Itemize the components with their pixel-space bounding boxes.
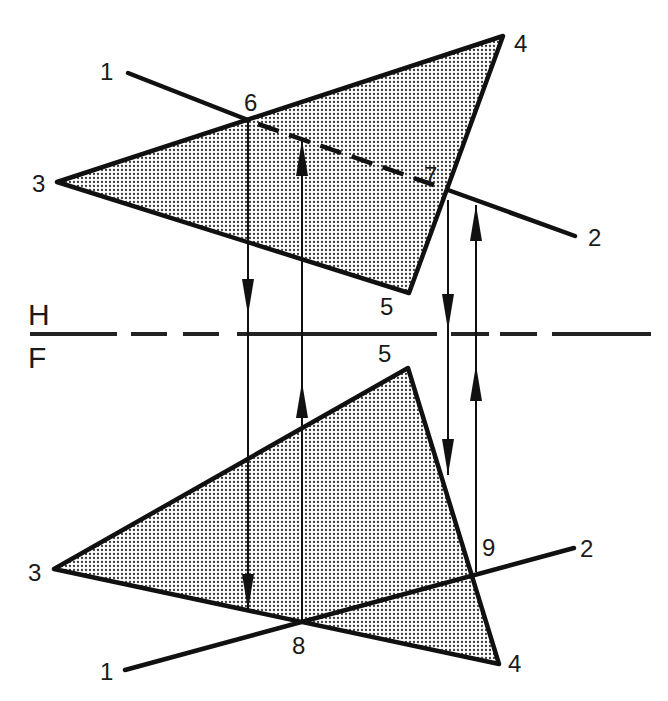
top-label-7: 7 <box>424 162 437 189</box>
arrowhead-up-icon <box>296 382 308 418</box>
fold-label-h: H <box>28 298 50 331</box>
top-line-segment-1-6 <box>128 73 248 120</box>
front-label-3: 3 <box>28 559 41 586</box>
front-label-4: 4 <box>508 650 521 677</box>
front-label-9: 9 <box>482 534 495 561</box>
top-view: 1 2 3 4 5 6 7 <box>32 30 601 320</box>
arrowhead-up-icon <box>470 365 482 401</box>
top-label-6: 6 <box>244 89 257 116</box>
arrowhead-down-icon <box>242 279 254 315</box>
top-label-4: 4 <box>514 30 527 57</box>
front-label-8: 8 <box>292 632 305 659</box>
top-label-1: 1 <box>100 58 113 85</box>
top-line-segment-7-2 <box>448 190 575 236</box>
front-label-1: 1 <box>100 658 113 685</box>
front-label-5: 5 <box>378 340 391 367</box>
arrowhead-down-icon <box>442 439 454 475</box>
fold-label-f: F <box>28 341 46 374</box>
arrowhead-down-icon <box>442 294 454 330</box>
top-label-2: 2 <box>588 224 601 251</box>
top-label-3: 3 <box>32 170 45 197</box>
front-view: 1 2 3 4 5 8 9 <box>28 340 593 685</box>
top-label-5: 5 <box>380 293 393 320</box>
arrowhead-up-icon <box>470 205 482 241</box>
front-label-2: 2 <box>580 535 593 562</box>
front-plane-shaded <box>54 368 499 664</box>
line-plane-intersection-diagram: H F 1 2 3 4 5 6 7 1 2 3 4 5 8 9 <box>0 0 668 701</box>
